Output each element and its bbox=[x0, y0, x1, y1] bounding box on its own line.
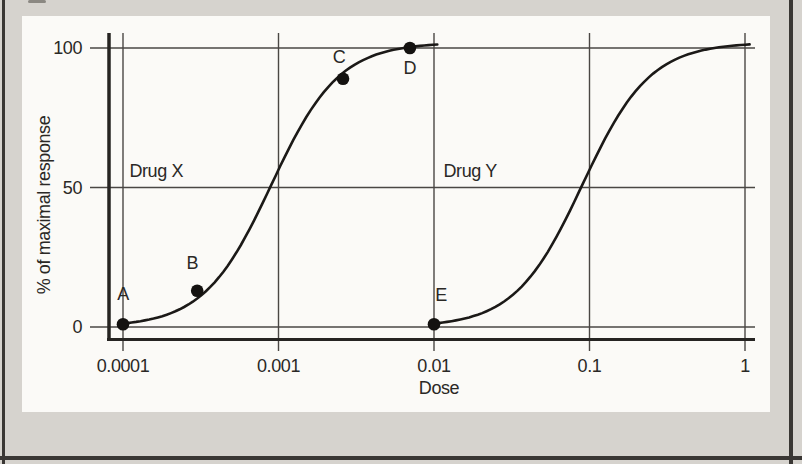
y-axis-label: % of maximal response bbox=[33, 116, 55, 295]
y-tick-label-50: 50 bbox=[30, 177, 82, 199]
x-axis-label: Dose bbox=[399, 377, 479, 399]
data-point-a bbox=[117, 318, 130, 331]
point-label-a: A bbox=[108, 283, 138, 305]
point-label-c: C bbox=[324, 46, 354, 68]
x-tick-label-0.001: 0.001 bbox=[239, 355, 319, 377]
x-tick-label-0.01: 0.01 bbox=[394, 355, 474, 377]
series-label-drug-y: Drug Y bbox=[443, 160, 496, 182]
figure-border-right bbox=[789, 0, 793, 464]
figure-background: % of maximal response Dose ABCDEDrug XDr… bbox=[0, 0, 802, 464]
series-label-drug-x: Drug X bbox=[129, 160, 183, 182]
figure-border-bottom bbox=[0, 456, 802, 460]
data-point-c bbox=[337, 72, 350, 85]
point-label-e: E bbox=[426, 284, 456, 306]
figure-border-left bbox=[2, 0, 5, 464]
x-tick-label-1: 1 bbox=[705, 355, 785, 377]
y-tick-label-100: 100 bbox=[30, 37, 82, 59]
scan-artifact bbox=[28, 0, 46, 3]
curve-drug-y bbox=[434, 44, 750, 323]
x-tick-label-0.0001: 0.0001 bbox=[83, 355, 163, 377]
curve-drug-x bbox=[123, 45, 437, 324]
point-label-b: B bbox=[177, 252, 207, 274]
data-point-b bbox=[191, 284, 204, 297]
data-point-e bbox=[428, 318, 441, 331]
y-tick-label-0: 0 bbox=[30, 316, 82, 338]
data-point-d bbox=[404, 42, 417, 55]
point-label-d: D bbox=[395, 57, 425, 79]
x-tick-label-0.1: 0.1 bbox=[550, 355, 630, 377]
